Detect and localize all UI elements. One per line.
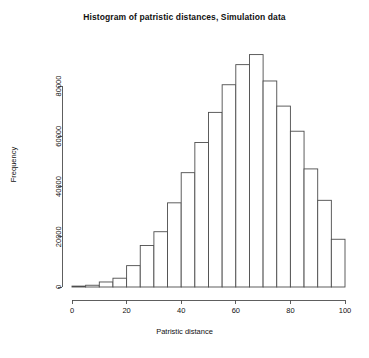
histogram-bar bbox=[236, 65, 250, 287]
bars-group bbox=[72, 55, 345, 287]
histogram-bar bbox=[263, 81, 277, 287]
y-axis-tick-label: 80000 bbox=[54, 76, 63, 97]
y-axis-tick-label: 20000 bbox=[54, 226, 63, 247]
histogram-bar bbox=[249, 55, 263, 287]
y-axis-tick-label: 0 bbox=[54, 285, 63, 289]
histogram-bar bbox=[168, 203, 182, 287]
histogram-bar bbox=[222, 85, 236, 287]
x-axis: 020406080100 bbox=[70, 300, 351, 315]
y-axis-tick-label: 40000 bbox=[54, 176, 63, 197]
y-axis: 020000400006000080000 bbox=[54, 76, 63, 290]
x-axis-tick-label: 20 bbox=[122, 306, 130, 315]
x-axis-tick-label: 40 bbox=[177, 306, 185, 315]
histogram-bar bbox=[72, 286, 86, 287]
histogram-bar bbox=[331, 239, 345, 287]
histogram-bar bbox=[181, 173, 195, 287]
histogram-bar bbox=[99, 282, 113, 287]
histogram-bar bbox=[290, 131, 304, 287]
histogram-bar bbox=[140, 246, 154, 287]
histogram-plot: Histogram of patristic distances, Simula… bbox=[0, 0, 369, 358]
histogram-bar bbox=[113, 278, 127, 287]
histogram-bar bbox=[277, 106, 291, 287]
x-axis-tick-label: 60 bbox=[232, 306, 240, 315]
histogram-bar bbox=[86, 285, 100, 287]
histogram-bar bbox=[127, 266, 141, 287]
plot-canvas: 020000400006000080000 020406080100 bbox=[0, 0, 369, 358]
histogram-bar bbox=[154, 232, 168, 287]
x-axis-tick-label: 80 bbox=[286, 306, 294, 315]
histogram-bar bbox=[195, 143, 209, 287]
histogram-bar bbox=[318, 200, 332, 287]
histogram-bar bbox=[304, 169, 318, 287]
y-axis-tick-label: 60000 bbox=[54, 126, 63, 147]
histogram-bar bbox=[209, 112, 223, 287]
x-axis-tick-label: 100 bbox=[339, 306, 352, 315]
x-axis-tick-label: 0 bbox=[70, 306, 74, 315]
